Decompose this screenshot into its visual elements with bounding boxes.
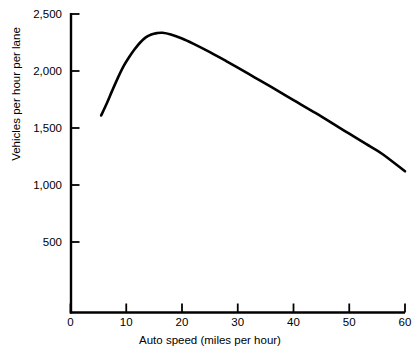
- x-axis-tick-label: 50: [343, 316, 356, 328]
- x-axis-tick-label: 40: [287, 316, 300, 328]
- y-axis-title: Vehicles per hour per lane: [10, 0, 22, 194]
- x-axis-ticks: [71, 304, 406, 313]
- data-series-line: [101, 33, 405, 172]
- x-axis-tick-label: 60: [399, 316, 412, 328]
- chart-plot-area: [0, 0, 420, 352]
- x-axis-tick-label: 20: [176, 316, 189, 328]
- x-axis-tick-label: 30: [231, 316, 244, 328]
- x-axis-tick-label: 10: [120, 316, 133, 328]
- x-axis-tick-label: 0: [67, 316, 73, 328]
- y-axis-ticks: [71, 14, 80, 242]
- chart-container: 5001,0001,5002,0002,500 0102030405060 Au…: [0, 0, 420, 352]
- y-axis-tick-label: 500: [10, 236, 62, 248]
- x-axis-title: Auto speed (miles per hour): [0, 334, 420, 346]
